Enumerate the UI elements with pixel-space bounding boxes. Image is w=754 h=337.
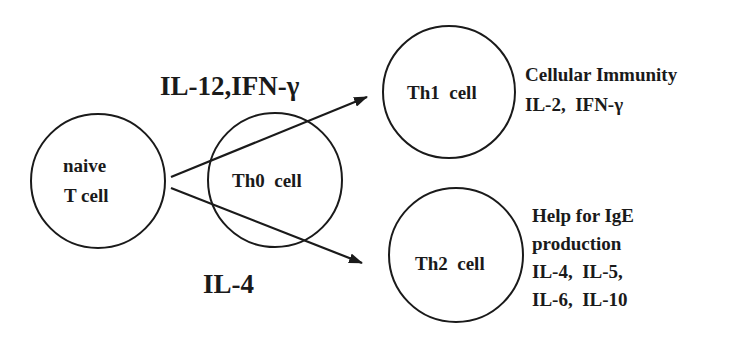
th0-label: Th0 cell <box>232 170 302 191</box>
naive-label-line2: T cell <box>64 185 109 206</box>
edge-label-il12-ifng: IL-12,IFN-γ <box>160 71 300 101</box>
th2-annotation-line2: production <box>532 233 622 254</box>
th-differentiation-diagram: naive T cell Th0 cell Th1 cell Th2 cell … <box>0 0 754 337</box>
arrow-to-th2 <box>171 188 362 263</box>
edge-label-il4: IL-4 <box>203 269 254 299</box>
naive-t-cell-circle <box>31 114 165 248</box>
th2-label: Th2 cell <box>415 253 485 274</box>
th1-annotation-line2: IL-2, IFN-γ <box>525 94 623 115</box>
th2-annotation-line3: IL-4, IL-5, <box>532 261 623 282</box>
arrow-to-th1 <box>171 97 367 177</box>
naive-label-line1: naive <box>63 155 106 176</box>
th2-annotation-line4: IL-6, IL-10 <box>532 289 628 310</box>
diagram-canvas: naive T cell Th0 cell Th1 cell Th2 cell … <box>0 0 754 337</box>
th1-annotation-line1: Cellular Immunity <box>525 64 678 85</box>
th1-label: Th1 cell <box>407 82 477 103</box>
th2-annotation-line1: Help for IgE <box>532 205 634 226</box>
